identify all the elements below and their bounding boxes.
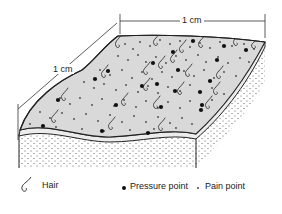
legend-pressure-label: Pressure point (130, 181, 188, 191)
hair-icon (16, 175, 34, 195)
dimension-top-label: 1 cm (180, 15, 204, 25)
small-dot-icon (197, 187, 199, 189)
legend-pain-label: Pain point (205, 181, 245, 191)
dimension-left-label: 1 cm (52, 64, 74, 74)
legend-hair-label: Hair (42, 180, 59, 190)
large-dot-icon (122, 186, 126, 190)
